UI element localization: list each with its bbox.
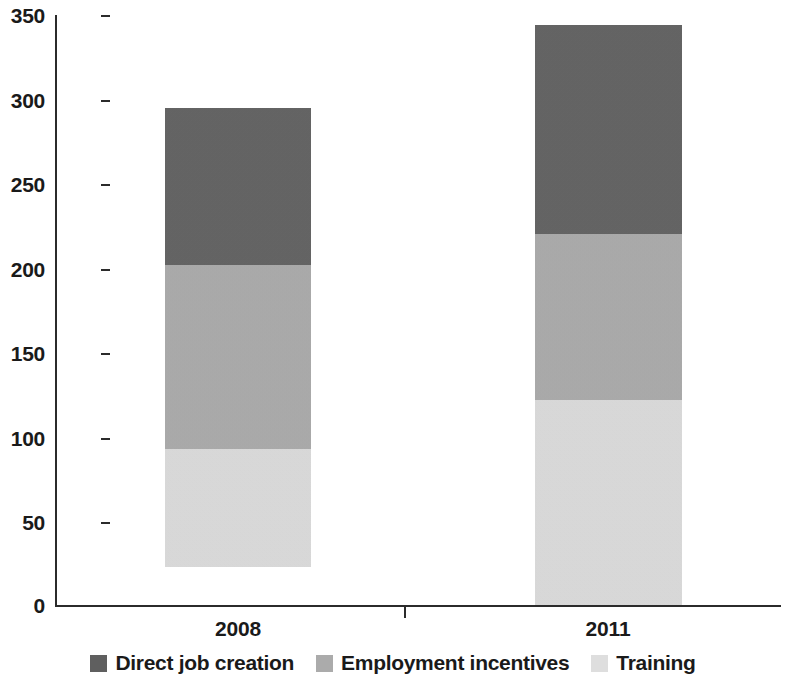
y-tick-label: 0 — [34, 594, 45, 618]
chart-legend: Direct job creation Employment incentive… — [0, 651, 786, 675]
y-tick-mark — [101, 15, 110, 17]
bar-2011[interactable] — [535, 25, 682, 605]
legend-swatch-employment-incentives-icon — [316, 655, 333, 672]
y-tick-label: 200 — [11, 258, 45, 282]
legend-swatch-direct-job-creation-icon — [90, 655, 107, 672]
legend-swatch-training-icon — [591, 655, 608, 672]
stacked-bar-chart: 350 300 250 200 150 100 50 0 — [0, 0, 786, 680]
y-tick-label: 150 — [11, 342, 45, 366]
x-axis-label-2008: 2008 — [215, 617, 261, 641]
y-tick-label: 50 — [22, 511, 45, 535]
y-tick-label: 250 — [11, 173, 45, 197]
bar-segment-2011-employment-incentives[interactable] — [535, 234, 682, 400]
y-tick-mark — [101, 438, 110, 440]
legend-label-direct-job-creation: Direct job creation — [115, 651, 294, 675]
legend-item-training[interactable]: Training — [591, 651, 695, 675]
y-tick-mark — [101, 522, 110, 524]
bar-segment-2011-training[interactable] — [535, 400, 682, 605]
bar-segment-2008-training[interactable] — [165, 449, 311, 567]
y-tick-mark — [101, 269, 110, 271]
x-axis-line — [55, 605, 781, 607]
y-tick-mark — [101, 353, 110, 355]
bar-segment-2008-employment-incentives[interactable] — [165, 265, 311, 449]
legend-item-direct-job-creation[interactable]: Direct job creation — [90, 651, 294, 675]
legend-item-employment-incentives[interactable]: Employment incentives — [316, 651, 569, 675]
bar-segment-2011-direct-job-creation[interactable] — [535, 25, 682, 234]
y-tick-label: 100 — [11, 427, 45, 451]
bar-2008[interactable] — [165, 108, 311, 567]
y-axis-line — [55, 15, 57, 607]
bar-segment-2008-direct-job-creation[interactable] — [165, 108, 311, 265]
legend-label-employment-incentives: Employment incentives — [341, 651, 569, 675]
plot-area: 350 300 250 200 150 100 50 0 — [0, 0, 786, 640]
y-tick-label: 300 — [11, 89, 45, 113]
x-axis-tick-mark-middle — [404, 607, 406, 618]
legend-label-training: Training — [616, 651, 695, 675]
x-axis-label-2011: 2011 — [586, 617, 631, 641]
y-tick-label: 350 — [11, 4, 45, 28]
y-tick-mark — [101, 100, 110, 102]
y-tick-mark — [101, 184, 110, 186]
